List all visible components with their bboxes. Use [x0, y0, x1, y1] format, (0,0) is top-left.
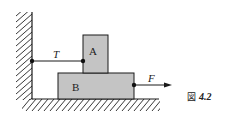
wall-hatch-line: [16, 20, 32, 34]
physics-diagram: B A T F 図 4.2: [0, 0, 234, 124]
wall-hatching: [16, 0, 32, 118]
floor-hatching: [20, 99, 180, 111]
floor-hatch-line: [20, 99, 30, 111]
rope-block-anchor: [81, 59, 85, 63]
wall-hatch-line: [16, 0, 32, 4]
floor-hatch-line: [50, 99, 60, 111]
floor-hatch-line: [122, 99, 132, 111]
figure-caption-number: 4.2: [198, 91, 212, 102]
floor-hatch-line: [146, 99, 156, 111]
block-a-label: A: [89, 45, 97, 57]
wall-hatch-line: [16, 86, 32, 100]
floor-hatch-line: [110, 99, 120, 111]
floor-hatch-line: [104, 99, 114, 111]
wall-hatch-line: [16, 50, 32, 64]
force-label: F: [147, 72, 155, 84]
floor-hatch-line: [32, 99, 42, 111]
floor-hatch-line: [62, 99, 72, 111]
wall-hatch-line: [16, 8, 32, 22]
floor-hatch-line: [152, 99, 162, 111]
block-b: [58, 73, 134, 99]
floor-hatch-line: [140, 99, 150, 111]
wall-hatch-line: [16, 38, 32, 52]
figure-caption-prefix: 図: [187, 92, 196, 102]
wall-hatch-line: [16, 74, 32, 88]
wall-hatch-line: [16, 80, 32, 94]
wall-hatch-line: [16, 68, 32, 82]
floor-hatch-line: [86, 99, 96, 111]
floor-hatch-line: [164, 99, 174, 111]
floor-hatch-line: [74, 99, 84, 111]
wall-hatch-line: [16, 44, 32, 58]
floor-hatch-line: [128, 99, 138, 111]
floor-hatch-line: [170, 99, 180, 111]
floor-hatch-line: [68, 99, 78, 111]
wall-hatch-line: [16, 32, 32, 46]
floor-hatch-line: [134, 99, 144, 111]
floor-hatch-line: [116, 99, 126, 111]
force-anchor: [132, 83, 136, 87]
wall-hatch-line: [16, 26, 32, 40]
wall-hatch-line: [16, 2, 32, 16]
floor-hatch-line: [26, 99, 36, 111]
force-arrowhead: [164, 83, 172, 88]
floor-hatch-line: [158, 99, 168, 111]
wall-hatch-line: [16, 56, 32, 70]
floor-hatch-line: [80, 99, 90, 111]
floor-hatch-line: [44, 99, 54, 111]
rope-wall-anchor: [30, 59, 34, 63]
floor-hatch-line: [38, 99, 48, 111]
floor-hatch-line: [56, 99, 66, 111]
wall-hatch-line: [16, 0, 32, 10]
wall-hatch-line: [16, 62, 32, 76]
block-b-label: B: [72, 81, 79, 93]
floor-hatch-line: [92, 99, 102, 111]
tension-label: T: [53, 48, 60, 60]
wall-hatch-line: [16, 14, 32, 28]
floor-hatch-line: [98, 99, 108, 111]
